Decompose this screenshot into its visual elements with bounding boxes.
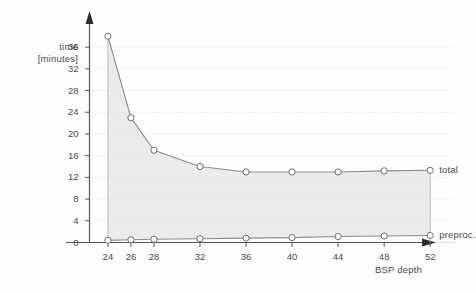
x-axis-label: BSP depth — [375, 264, 422, 275]
x-tick-label: 26 — [119, 251, 143, 262]
area-fill — [108, 36, 430, 240]
x-tick-label: 32 — [188, 251, 212, 262]
x-tick-label: 36 — [234, 251, 258, 262]
y-tick-label: 0 — [59, 237, 79, 248]
x-tick-label: 28 — [142, 251, 166, 262]
x-tick-label: 48 — [372, 251, 396, 262]
y-tick-label: 16 — [59, 150, 79, 161]
x-tick-label: 44 — [326, 251, 350, 262]
x-tick-label: 24 — [96, 251, 120, 262]
series-label-preproc: preproc. — [439, 229, 475, 240]
y-tick-label: 24 — [59, 106, 79, 117]
y-tick-label: 28 — [59, 85, 79, 96]
y-tick-label: 4 — [59, 215, 79, 226]
y-tick-label: 20 — [59, 128, 79, 139]
x-tick-label: 52 — [418, 251, 442, 262]
y-tick-label: 36 — [59, 41, 79, 52]
y-tick-label: 8 — [59, 193, 79, 204]
x-tick-label: 40 — [280, 251, 304, 262]
y-tick-label: 12 — [59, 171, 79, 182]
series-label-total: total — [439, 164, 458, 175]
y-tick-label: 32 — [59, 63, 79, 74]
